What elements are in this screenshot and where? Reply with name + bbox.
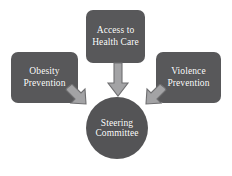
node-violence-prevention-label: Violence Prevention (167, 66, 209, 88)
node-steering-committee-label: Steering Committee (95, 118, 138, 138)
diagram-canvas: Access to Health Care Obesity Prevention… (0, 0, 232, 176)
arrow-down-icon (106, 62, 130, 98)
node-access-to-health-care-label: Access to Health Care (92, 25, 139, 47)
node-obesity-prevention-label: Obesity Prevention (23, 66, 65, 88)
node-steering-committee[interactable]: Steering Committee (86, 97, 148, 159)
arrow-down-right-icon (64, 84, 88, 108)
node-access-to-health-care[interactable]: Access to Health Care (86, 10, 145, 63)
arrow-down-left-icon (144, 84, 168, 108)
